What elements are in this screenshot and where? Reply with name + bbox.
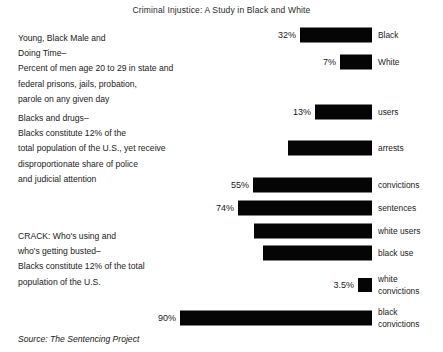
- bar-category-label-line: convictions: [378, 180, 419, 191]
- bar-category-label-line: Black: [378, 30, 398, 41]
- bar-category-label: whiteconvictions: [378, 274, 419, 297]
- bar-category-label: black use: [378, 248, 413, 259]
- bar-category-label-line: white users: [378, 226, 420, 237]
- bar-row: white users: [0, 223, 443, 239]
- bar-row: 13%users: [0, 104, 443, 120]
- bar-rect: [253, 178, 372, 193]
- bar-value-label: 13%: [293, 107, 311, 117]
- bar-rect: [263, 246, 372, 261]
- bar-rect: [180, 311, 372, 326]
- bar-row: 90%blackconvictions: [0, 310, 443, 326]
- bar-value-label: 74%: [216, 203, 234, 213]
- bar-category-label-line: sentences: [378, 203, 416, 214]
- bar-category-label-line: users: [378, 107, 398, 118]
- bar-category-label-line: black: [378, 307, 419, 319]
- bar-chart: 32%Black7%White13%usersarrests55%convict…: [0, 0, 443, 352]
- source-note: Source: The Sentencing Project: [18, 334, 139, 344]
- bar-rect: [315, 105, 372, 120]
- bar-category-label-line: black use: [378, 248, 413, 259]
- bar-rect: [254, 224, 372, 239]
- bar-row: 55%convictions: [0, 177, 443, 193]
- bar-category-label-line: arrests: [378, 143, 404, 154]
- bar-row: 3.5%whiteconvictions: [0, 277, 443, 293]
- bar-value-label: 7%: [323, 57, 336, 67]
- bar-category-label-line: convictions: [378, 318, 419, 330]
- bar-category-label-line: convictions: [378, 285, 419, 297]
- bar-value-label: 3.5%: [333, 280, 354, 290]
- bar-rect: [238, 201, 372, 216]
- bar-category-label: Black: [378, 30, 398, 41]
- bar-rect: [340, 55, 372, 70]
- bar-row: 32%Black: [0, 27, 443, 43]
- bar-category-label: White: [378, 57, 399, 68]
- bar-category-label: blackconvictions: [378, 307, 419, 330]
- bar-row: arrests: [0, 140, 443, 156]
- bar-value-label: 32%: [278, 30, 296, 40]
- bar-category-label-line: White: [378, 57, 399, 68]
- bar-rect: [300, 28, 372, 43]
- bar-row: black use: [0, 245, 443, 261]
- bar-row: 7%White: [0, 54, 443, 70]
- bar-category-label: users: [378, 107, 398, 118]
- bar-row: 74%sentences: [0, 200, 443, 216]
- bar-category-label: convictions: [378, 180, 419, 191]
- bar-category-label: arrests: [378, 143, 404, 154]
- bar-value-label: 90%: [158, 313, 176, 323]
- bar-value-label: 55%: [231, 180, 249, 190]
- bar-rect: [288, 141, 372, 156]
- bar-category-label: sentences: [378, 203, 416, 214]
- bar-category-label: white users: [378, 226, 420, 237]
- bar-category-label-line: white: [378, 274, 419, 286]
- bar-rect: [358, 278, 372, 292]
